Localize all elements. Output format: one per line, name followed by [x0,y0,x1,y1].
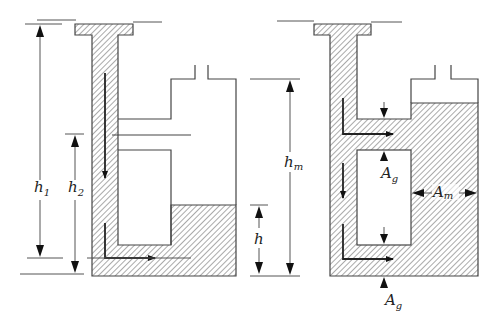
ag-bottom-label: Ag [383,291,402,311]
h-arrow-down-icon [255,262,263,274]
h-label: h [254,230,264,248]
hm-arrow-down-icon [286,263,294,275]
riser-outline [411,65,478,103]
casting-gating-diagram: h1 h2 Ag Ag [0,0,497,324]
right-panel: Ag Ag Am hm h [250,21,478,311]
h1-label: h1 [34,178,50,198]
h-arrow-up-icon [255,206,263,218]
h2-label: h2 [68,178,84,198]
h2-arrow-up-icon [71,135,79,147]
cavity-outline [118,150,171,245]
hm-arrow-up-icon [286,80,294,92]
h2-arrow-down-icon [71,261,79,273]
left-panel: h1 h2 [20,20,236,276]
ag-bottom-arrow-up-icon [380,277,388,288]
h1-arrow-down-icon [36,245,44,257]
h1-arrow-up-icon [36,25,44,37]
ag-top-arrow-down-icon [380,108,388,118]
hm-label: hm [284,153,303,172]
